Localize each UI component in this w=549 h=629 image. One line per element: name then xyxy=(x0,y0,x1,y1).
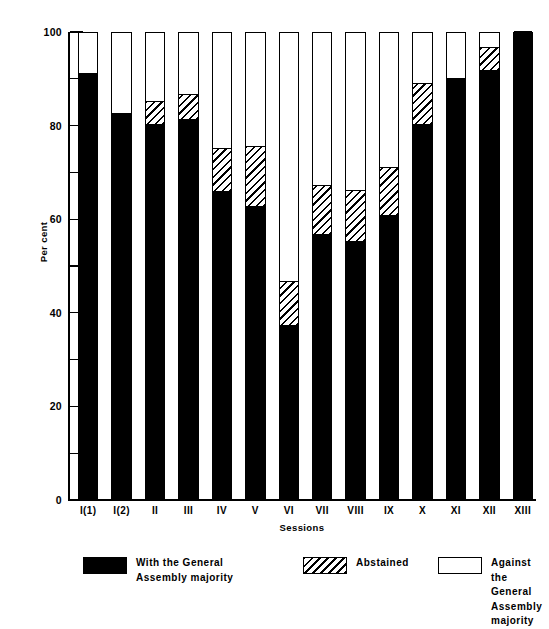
bar-segment-with-VI xyxy=(280,326,299,499)
bar-IV[interactable] xyxy=(212,32,233,500)
bar-segment-abstained-IX xyxy=(380,167,399,216)
legend-label-against-majority: Against the General Assembly majority xyxy=(491,556,542,629)
bar-segment-with-IV xyxy=(213,192,232,499)
x-axis-tick-label-XII: XII xyxy=(483,505,496,516)
x-axis-tick-label-V: V xyxy=(252,505,259,516)
bar-segment-with-VIII xyxy=(346,242,365,499)
bar-segment-with-IX xyxy=(380,216,399,499)
chart-legend: With the General Assembly majority Absta… xyxy=(75,556,530,600)
bar-IX[interactable] xyxy=(379,32,400,500)
bar-III[interactable] xyxy=(178,32,199,500)
bar-I(1)[interactable] xyxy=(78,32,99,500)
x-axis-tick-label-I(2): I(2) xyxy=(113,505,130,516)
y-axis-tick-label-40: 40 xyxy=(22,307,62,319)
bar-VII[interactable] xyxy=(312,32,333,500)
bar-XI[interactable] xyxy=(446,32,467,500)
x-axis-tick-label-IV: IV xyxy=(217,505,227,516)
legend-item-abstained: Abstained xyxy=(303,556,409,574)
y-axis-tick-label-20: 20 xyxy=(22,400,62,412)
bar-XII[interactable] xyxy=(479,32,500,500)
y-axis-tick-label-100: 100 xyxy=(22,26,62,38)
bar-segment-abstained-V xyxy=(246,146,265,207)
x-axis-tick-label-I(1): I(1) xyxy=(80,505,97,516)
bar-segment-abstained-II xyxy=(146,101,165,124)
x-axis-tick-label-VIII: VIII xyxy=(347,505,364,516)
bar-VI[interactable] xyxy=(279,32,300,500)
legend-item-with-majority: With the General Assembly majority xyxy=(83,556,233,585)
plot-area: 100806040200 xyxy=(68,32,536,500)
y-axis-tick-label-60: 60 xyxy=(22,213,62,225)
x-axis-tick-label-XI: XI xyxy=(451,505,461,516)
bar-segment-with-I(2) xyxy=(112,113,131,499)
y-axis-tick-label-0: 0 xyxy=(22,494,62,506)
bar-X[interactable] xyxy=(412,32,433,500)
bar-II[interactable] xyxy=(145,32,166,500)
bar-segment-abstained-VI xyxy=(280,281,299,325)
bar-segment-abstained-X xyxy=(413,83,432,125)
bar-segment-abstained-VIII xyxy=(346,190,365,241)
bars-layer xyxy=(68,32,536,500)
bar-segment-abstained-IV xyxy=(213,148,232,192)
y-axis-tick-label-80: 80 xyxy=(22,120,62,132)
bar-segment-with-VII xyxy=(313,235,332,499)
bar-segment-abstained-XII xyxy=(480,47,499,70)
x-axis-tick-label-VI: VI xyxy=(284,505,294,516)
x-axis-tick-label-II: II xyxy=(152,505,158,516)
legend-label-with-majority: With the General Assembly majority xyxy=(136,556,233,585)
legend-label-abstained: Abstained xyxy=(356,556,409,571)
bar-segment-with-X xyxy=(413,125,432,499)
bar-segment-with-XIII xyxy=(514,31,533,499)
x-axis-tick-label-X: X xyxy=(419,505,426,516)
bar-segment-abstained-VII xyxy=(313,185,332,234)
hatched-swatch-icon xyxy=(303,557,347,574)
bar-segment-with-XII xyxy=(480,71,499,499)
bar-segment-with-II xyxy=(146,125,165,499)
x-axis-tick-label-XIII: XIII xyxy=(514,505,531,516)
bar-segment-abstained-III xyxy=(179,94,198,120)
bar-segment-with-XI xyxy=(447,78,466,499)
x-axis-tick-labels: I(1)I(2)IIIIIIVVVIVIIVIIIIXXXIXIIXIII xyxy=(68,505,536,521)
x-axis-tick-label-III: III xyxy=(184,505,194,516)
bar-segment-with-I(1) xyxy=(79,73,98,499)
y-axis-tick-labels: 100806040200 xyxy=(22,32,62,500)
x-axis-tick-label-IX: IX xyxy=(384,505,394,516)
bar-XIII[interactable] xyxy=(513,32,534,500)
bar-segment-with-III xyxy=(179,120,198,499)
bar-I(2)[interactable] xyxy=(111,32,132,500)
bar-segment-with-V xyxy=(246,207,265,500)
x-axis-tick-label-VII: VII xyxy=(315,505,328,516)
solid-black-swatch-icon xyxy=(83,557,127,574)
legend-item-against-majority: Against the General Assembly majority xyxy=(438,556,542,629)
empty-swatch-icon xyxy=(438,557,482,574)
bar-V[interactable] xyxy=(245,32,266,500)
x-axis-title: Sessions xyxy=(68,522,536,533)
bar-VIII[interactable] xyxy=(345,32,366,500)
